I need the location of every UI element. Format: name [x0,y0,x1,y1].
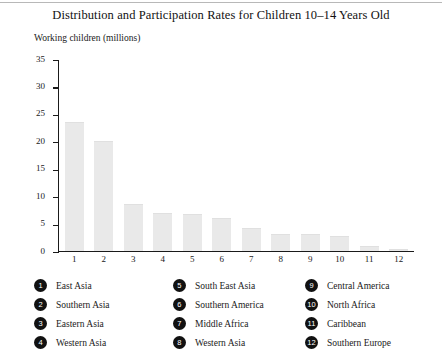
bar-slot [59,60,89,251]
y-tick-label: 0 [41,246,46,256]
y-tick: 35 [53,60,59,61]
y-tick: 30 [53,87,59,88]
bar-slot [295,60,325,251]
legend-item[interactable]: 6Southern America [173,297,305,312]
legend-badge-6: 6 [173,298,186,311]
legend-label: Southern Europe [327,338,391,348]
plot-area: 05101520253035 [58,60,414,252]
legend-badge-12: 12 [305,336,318,349]
legend-item[interactable]: 1East Asia [34,278,173,293]
legend-label: East Asia [56,281,92,291]
x-tick-label: 7 [236,254,266,264]
y-tick-label: 30 [36,81,45,91]
legend-label: Caribbean [327,319,366,329]
bar-5 [183,214,202,250]
bar-slot [207,60,237,251]
legend-column-1: 1East Asia2Southern Asia3Eastern Asia4We… [34,278,173,350]
x-tick-label: 10 [325,254,355,264]
legend-badge-9: 9 [305,279,318,292]
chart-title: Distribution and Participation Rates for… [0,8,442,23]
x-tick-label: 4 [148,254,178,264]
y-tick-label: 25 [36,108,45,118]
y-tick: 0 [53,252,59,253]
bar-6 [212,218,231,251]
y-tick-label: 20 [36,136,45,146]
legend-item[interactable]: 5South East Asia [173,278,305,293]
bar-slot [384,60,414,251]
bar-10 [330,236,349,251]
x-tick-label: 5 [177,254,207,264]
legend-label: Western Asia [195,338,245,348]
bar-slot [89,60,119,251]
y-tick: 5 [53,225,59,226]
y-tick-label: 35 [36,54,45,64]
x-tick-label: 2 [89,254,119,264]
legend-label: Middle Africa [195,319,249,329]
bar-slot [325,60,355,251]
legend-item[interactable]: 11Caribbean [305,316,434,331]
legend-badge-4: 4 [34,336,47,349]
bar-7 [242,228,261,250]
bar-slot [354,60,384,251]
y-tick-label: 5 [41,218,46,228]
bar-2 [94,141,113,251]
legend-item[interactable]: 12Southern Europe [305,335,434,350]
legend-badge-1: 1 [34,279,47,292]
x-axis-line [58,251,414,252]
legend-badge-3: 3 [34,317,47,330]
bar-12 [389,249,408,251]
x-tick-label: 6 [207,254,237,264]
bar-series [59,60,413,251]
bar-1 [65,122,84,251]
legend-badge-2: 2 [34,298,47,311]
legend-column-3: 9Central America10North Africa11Caribbea… [305,278,434,350]
x-tick-label: 12 [384,254,414,264]
x-tick-label: 3 [118,254,148,264]
legend-item[interactable]: 3Eastern Asia [34,316,173,331]
legend-label: Central America [327,281,390,291]
bar-slot [118,60,148,251]
legend-badge-5: 5 [173,279,186,292]
bar-4 [153,213,172,251]
y-tick-label: 15 [36,163,45,173]
legend-label: South East Asia [195,281,255,291]
y-tick-label: 10 [36,191,45,201]
legend-item[interactable]: 7Middle Africa [173,316,305,331]
legend-item[interactable]: 4Western Asia [34,335,173,350]
bar-11 [360,246,379,251]
bar-slot [266,60,296,251]
legend-item[interactable]: 10North Africa [305,297,434,312]
legend-column-2: 5South East Asia6Southern America7Middle… [173,278,305,350]
legend-label: North Africa [327,300,375,310]
legend-badge-11: 11 [305,317,318,330]
bar-slot [177,60,207,251]
top-divider [0,2,442,3]
legend-badge-10: 10 [305,298,318,311]
y-tick: 10 [53,197,59,198]
y-axis-label: Working children (millions) [34,33,140,43]
legend-item[interactable]: 9Central America [305,278,434,293]
legend-badge-8: 8 [173,336,186,349]
legend-badge-7: 7 [173,317,186,330]
legend-label: Southern Asia [56,300,110,310]
legend-item[interactable]: 8Western Asia [173,335,305,350]
legend-label: Eastern Asia [56,319,104,329]
legend-label: Southern America [195,300,264,310]
bar-slot [148,60,178,251]
bar-slot [236,60,266,251]
bar-9 [301,234,320,250]
x-tick-label: 11 [354,254,384,264]
legend-item[interactable]: 2Southern Asia [34,297,173,312]
legend: 1East Asia2Southern Asia3Eastern Asia4We… [34,278,434,350]
x-tick-label: 8 [266,254,296,264]
bar-3 [124,204,143,250]
x-tick-label: 9 [295,254,325,264]
x-axis-tick-labels: 123456789101112 [59,254,413,264]
y-tick: 20 [53,142,59,143]
legend-label: Western Asia [56,338,106,348]
y-tick: 25 [53,115,59,116]
y-tick: 15 [53,170,59,171]
bar-8 [271,234,290,250]
x-tick-label: 1 [59,254,89,264]
